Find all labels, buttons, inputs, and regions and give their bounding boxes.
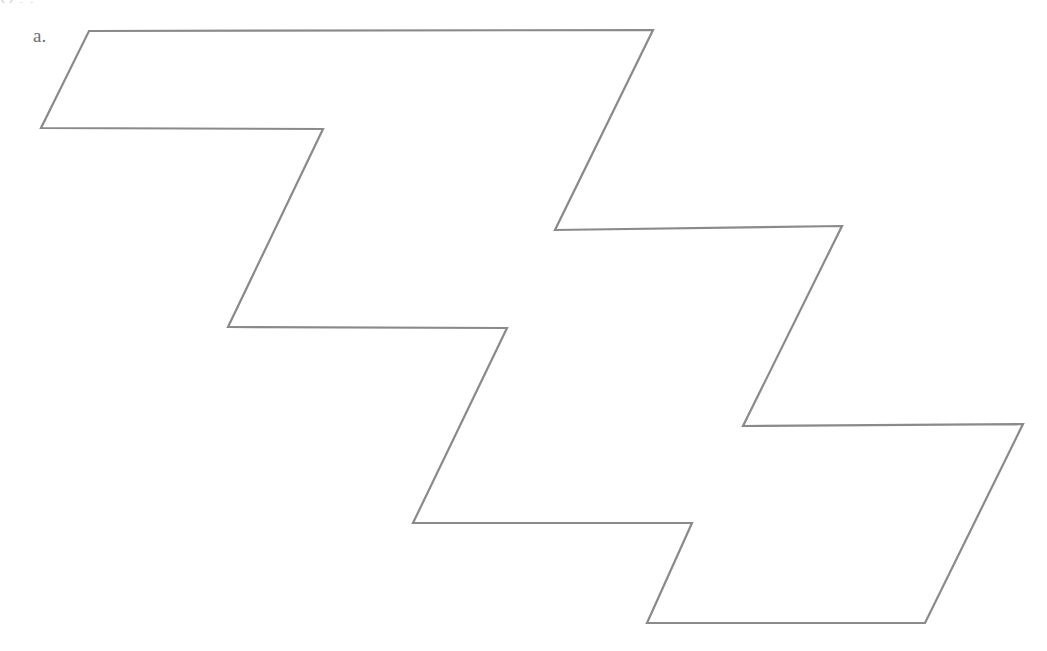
- zigzag-staircase-figure: [0, 0, 1047, 651]
- figure-page: Q , , a.: [0, 0, 1047, 651]
- zigzag-polygon-outline: [41, 30, 1023, 623]
